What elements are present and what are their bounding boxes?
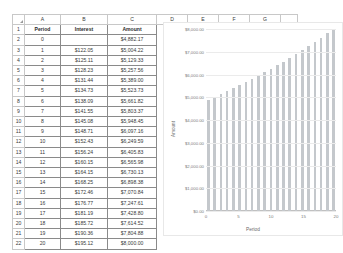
cell-C6[interactable]: $5,389.00 xyxy=(108,76,157,86)
cell-B18[interactable]: $176.77 xyxy=(61,198,108,208)
row-header-8[interactable]: 8 xyxy=(13,96,25,106)
cell-A11[interactable]: 9 xyxy=(25,127,61,137)
cell-B20[interactable]: $185.72 xyxy=(61,219,108,229)
cell-B13[interactable]: $156.24 xyxy=(61,147,108,157)
cell-A3[interactable]: 1 xyxy=(25,45,61,55)
cell-A14[interactable]: 12 xyxy=(25,157,61,167)
cell-C4[interactable]: $5,129.33 xyxy=(108,55,157,65)
cell-A16[interactable]: 14 xyxy=(25,178,61,188)
cell-C7[interactable]: $5,523.73 xyxy=(108,86,157,96)
cell-B6[interactable]: $131.44 xyxy=(61,76,108,86)
row-header-6[interactable]: 6 xyxy=(13,76,25,86)
cell-A13[interactable]: 11 xyxy=(25,147,61,157)
row-header-19[interactable]: 19 xyxy=(13,208,25,218)
row-header-21[interactable]: 21 xyxy=(13,229,25,239)
cell-A15[interactable]: 13 xyxy=(25,168,61,178)
row-header-10[interactable]: 10 xyxy=(13,117,25,127)
cell-B14[interactable]: $160.15 xyxy=(61,157,108,167)
row-header-4[interactable]: 4 xyxy=(13,55,25,65)
cell-B12[interactable]: $152.43 xyxy=(61,137,108,147)
cell-C19[interactable]: $7,428.80 xyxy=(108,208,157,218)
cell-B9[interactable]: $141.55 xyxy=(61,106,108,116)
cell-E22[interactable] xyxy=(188,239,219,249)
cell-A19[interactable]: 17 xyxy=(25,208,61,218)
cell-C8[interactable]: $5,661.82 xyxy=(108,96,157,106)
cell-A1[interactable]: Period xyxy=(25,25,61,35)
cell-C20[interactable]: $7,614.52 xyxy=(108,219,157,229)
row-header-5[interactable]: 5 xyxy=(13,66,25,76)
cell-D22[interactable] xyxy=(157,239,188,249)
cell-A8[interactable]: 6 xyxy=(25,96,61,106)
amount-bar-chart[interactable]: Amount $8,000.00$7,000.00$6,000.00$5,000… xyxy=(163,22,343,236)
row-header-18[interactable]: 18 xyxy=(13,198,25,208)
row-header-11[interactable]: 11 xyxy=(13,127,25,137)
cell-C16[interactable]: $6,898.38 xyxy=(108,178,157,188)
cell-B15[interactable]: $164.15 xyxy=(61,168,108,178)
row-header-15[interactable]: 15 xyxy=(13,168,25,178)
row-header-16[interactable]: 16 xyxy=(13,178,25,188)
cell-A4[interactable]: 2 xyxy=(25,55,61,65)
cell-C17[interactable]: $7,070.84 xyxy=(108,188,157,198)
cell-A20[interactable]: 18 xyxy=(25,219,61,229)
row-header-1[interactable]: 1 xyxy=(13,25,25,35)
cell-B7[interactable]: $134.73 xyxy=(61,86,108,96)
cell-B19[interactable]: $181.19 xyxy=(61,208,108,218)
row-header-3[interactable]: 3 xyxy=(13,45,25,55)
cell-C5[interactable]: $5,257.56 xyxy=(108,66,157,76)
cell-B8[interactable]: $138.09 xyxy=(61,96,108,106)
cell-B21[interactable]: $190.36 xyxy=(61,229,108,239)
cell-B10[interactable]: $145.08 xyxy=(61,117,108,127)
cell-A9[interactable]: 7 xyxy=(25,106,61,116)
cell-A2[interactable]: 0 xyxy=(25,35,61,45)
cell-A21[interactable]: 19 xyxy=(25,229,61,239)
row-header-22[interactable]: 22 xyxy=(13,239,25,249)
column-header-b[interactable]: B xyxy=(61,15,108,25)
cell-C22[interactable]: $8,000.00 xyxy=(108,239,157,249)
cell-C10[interactable]: $5,948.45 xyxy=(108,117,157,127)
cell-C21[interactable]: $7,804.88 xyxy=(108,229,157,239)
cell-B1[interactable]: Interest xyxy=(61,25,108,35)
cell-C11[interactable]: $6,097.16 xyxy=(108,127,157,137)
row-header-20[interactable]: 20 xyxy=(13,219,25,229)
row-header-14[interactable]: 14 xyxy=(13,157,25,167)
cell-B11[interactable]: $148.71 xyxy=(61,127,108,137)
row-header-2[interactable]: 2 xyxy=(13,35,25,45)
cell-C9[interactable]: $5,803.37 xyxy=(108,106,157,116)
cell-A18[interactable]: 16 xyxy=(25,198,61,208)
cell-F22[interactable] xyxy=(219,239,250,249)
cell-B16[interactable]: $168.25 xyxy=(61,178,108,188)
column-header-c[interactable]: C xyxy=(108,15,157,25)
cell-A22[interactable]: 20 xyxy=(25,239,61,249)
row-header-13[interactable]: 13 xyxy=(13,147,25,157)
cell-A6[interactable]: 4 xyxy=(25,76,61,86)
cell-B17[interactable]: $172.46 xyxy=(61,188,108,198)
cell-C14[interactable]: $6,565.98 xyxy=(108,157,157,167)
select-all-corner[interactable] xyxy=(13,15,25,25)
cell-B2[interactable] xyxy=(61,35,108,45)
cell-H22[interactable] xyxy=(281,239,298,249)
cell-B5[interactable]: $128.23 xyxy=(61,66,108,76)
row-header-17[interactable]: 17 xyxy=(13,188,25,198)
cell-C13[interactable]: $6,405.83 xyxy=(108,147,157,157)
cell-B3[interactable]: $122.05 xyxy=(61,45,108,55)
cell-C18[interactable]: $7,247.61 xyxy=(108,198,157,208)
chart-bar-period-6 xyxy=(245,82,248,211)
cell-G22[interactable] xyxy=(250,239,281,249)
cell-A12[interactable]: 10 xyxy=(25,137,61,147)
cell-C12[interactable]: $6,249.59 xyxy=(108,137,157,147)
cell-A5[interactable]: 3 xyxy=(25,66,61,76)
cell-C2[interactable]: $4,882.17 xyxy=(108,35,157,45)
column-header-a[interactable]: A xyxy=(25,15,61,25)
cell-C15[interactable]: $6,730.13 xyxy=(108,168,157,178)
cell-C1[interactable]: Amount xyxy=(108,25,157,35)
cell-A10[interactable]: 8 xyxy=(25,117,61,127)
row-header-7[interactable]: 7 xyxy=(13,86,25,96)
cell-B4[interactable]: $125.11 xyxy=(61,55,108,65)
cell-C3[interactable]: $5,004.22 xyxy=(108,45,157,55)
cell-A7[interactable]: 5 xyxy=(25,86,61,96)
chart-bar-period-11 xyxy=(276,65,279,211)
cell-B22[interactable]: $195.12 xyxy=(61,239,108,249)
row-header-12[interactable]: 12 xyxy=(13,137,25,147)
cell-A17[interactable]: 15 xyxy=(25,188,61,198)
row-header-9[interactable]: 9 xyxy=(13,106,25,116)
